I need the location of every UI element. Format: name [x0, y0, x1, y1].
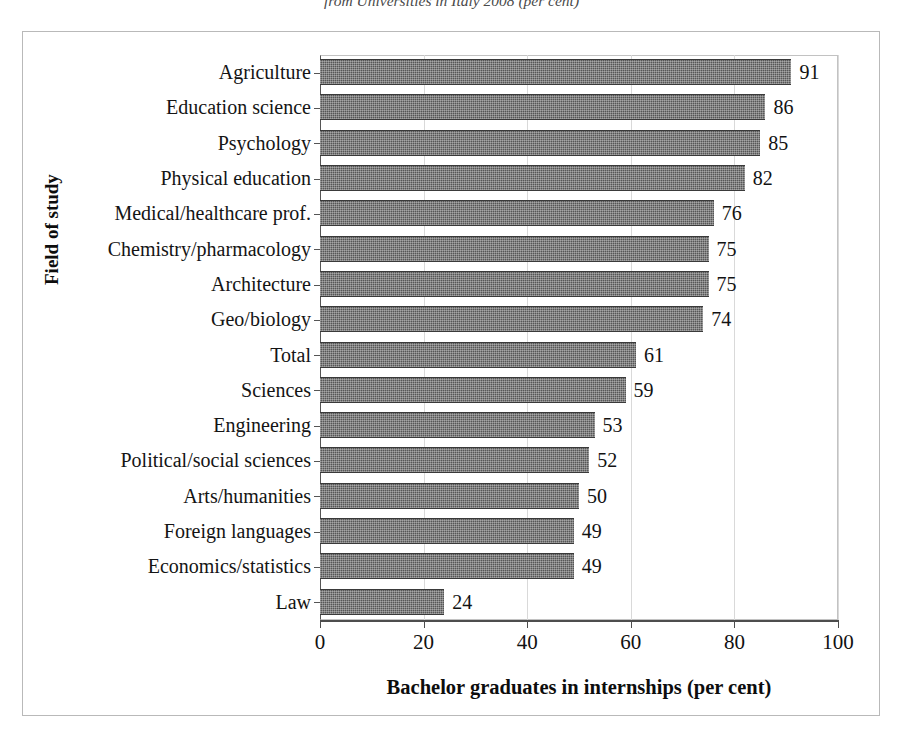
bar-rows: Agriculture91Education science86Psycholo… [320, 55, 880, 620]
x-axis-tick-label: 0 [315, 630, 326, 655]
category-label: Psychology [218, 129, 311, 157]
bar [320, 518, 574, 544]
bar [320, 589, 444, 615]
bar-value-label: 75 [717, 271, 737, 297]
bar-row: Agriculture91 [320, 55, 880, 90]
x-axis-tick [424, 620, 425, 628]
category-label: Chemistry/pharmacology [108, 235, 311, 263]
category-label: Geo/biology [211, 305, 311, 333]
category-label: Political/social sciences [121, 446, 312, 474]
category-label: Physical education [160, 164, 311, 192]
bar-row: Total61 [320, 338, 880, 373]
bar-row: Law24 [320, 585, 880, 620]
category-label: Architecture [211, 270, 311, 298]
x-axis-tick [631, 620, 632, 628]
bar-value-label: 53 [603, 412, 623, 438]
x-axis-tick-label: 40 [517, 630, 538, 655]
bar-value-label: 86 [773, 94, 793, 120]
bar [320, 412, 595, 438]
bar-row: Economics/statistics49 [320, 549, 880, 584]
bar [320, 447, 589, 473]
category-label: Sciences [241, 376, 311, 404]
y-axis-title: Field of study [41, 174, 63, 285]
bar [320, 165, 745, 191]
bar [320, 130, 760, 156]
bar-value-label: 61 [644, 342, 664, 368]
x-axis-line [320, 620, 838, 622]
bar [320, 94, 765, 120]
bar-row: Sciences59 [320, 373, 880, 408]
bar [320, 553, 574, 579]
figure-caption-text: from Universities in Italy 2008 (per cen… [0, 0, 903, 10]
figure-caption: from Universities in Italy 2008 (per cen… [0, 0, 903, 11]
x-axis-tick [527, 620, 528, 628]
bar-row: Engineering53 [320, 408, 880, 443]
bar-value-label: 52 [597, 447, 617, 473]
bar [320, 377, 626, 403]
bar-row: Foreign languages49 [320, 514, 880, 549]
bar-value-label: 24 [452, 589, 472, 615]
bar [320, 200, 714, 226]
bar-row: Physical education82 [320, 161, 880, 196]
bar-row: Political/social sciences52 [320, 443, 880, 478]
bar-value-label: 91 [799, 59, 819, 85]
category-label: Medical/healthcare prof. [114, 199, 311, 227]
bar [320, 306, 703, 332]
bar-row: Arts/humanities50 [320, 479, 880, 514]
x-axis-tick-label: 20 [413, 630, 434, 655]
bar-value-label: 82 [753, 165, 773, 191]
bar-row: Geo/biology74 [320, 302, 880, 337]
x-axis-tick-label: 60 [620, 630, 641, 655]
bar-value-label: 49 [582, 518, 602, 544]
bar-value-label: 49 [582, 553, 602, 579]
bar-row: Medical/healthcare prof.76 [320, 196, 880, 231]
bar-value-label: 76 [722, 200, 742, 226]
category-label: Agriculture [219, 58, 311, 86]
x-axis-tick [838, 620, 839, 628]
x-axis-tick-label: 80 [724, 630, 745, 655]
x-axis-tick-label: 100 [822, 630, 854, 655]
bar-row: Education science86 [320, 90, 880, 125]
bar-value-label: 59 [634, 377, 654, 403]
bar-value-label: 74 [711, 306, 731, 332]
bar-row: Psychology85 [320, 126, 880, 161]
bar-value-label: 85 [768, 130, 788, 156]
bar-value-label: 75 [717, 236, 737, 262]
bar-row: Architecture75 [320, 267, 880, 302]
bar [320, 483, 579, 509]
category-label: Law [275, 588, 311, 616]
category-label: Arts/humanities [183, 482, 311, 510]
bar-row: Chemistry/pharmacology75 [320, 232, 880, 267]
x-axis-tick [734, 620, 735, 628]
bar [320, 271, 709, 297]
x-axis-tick [320, 620, 321, 628]
bar [320, 59, 791, 85]
category-label: Engineering [213, 411, 311, 439]
bar [320, 342, 636, 368]
bar-value-label: 50 [587, 483, 607, 509]
category-label: Education science [166, 93, 311, 121]
x-axis-title: Bachelor graduates in internships (per c… [320, 676, 838, 699]
category-label: Total [270, 341, 311, 369]
category-label: Foreign languages [164, 517, 311, 545]
category-label: Economics/statistics [148, 552, 311, 580]
bar [320, 236, 709, 262]
